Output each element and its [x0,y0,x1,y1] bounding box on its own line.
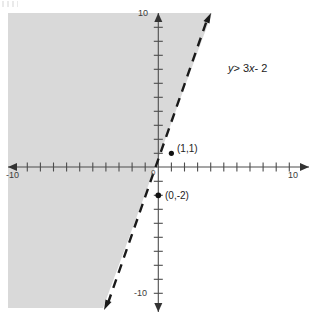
y-axis-max-label: 10 [138,8,148,18]
origin-label: 0 [151,168,155,177]
coordinate-plane-svg [0,0,317,321]
inequality-label: y> 3x- 2 [228,62,267,74]
point-marker-0-neg2 [155,192,161,198]
inequality-relation: > 3 [234,62,250,74]
x-axis-min-label: -10 [6,170,19,180]
y-axis-min-label: -10 [134,288,147,298]
point-label-0-neg2: (0,-2) [165,190,189,201]
shaded-solution-region [8,13,212,308]
point-label-1-1: (1,1) [177,143,198,154]
x-axis-max-label: 10 [288,170,298,180]
point-marker-1-1 [169,151,174,156]
inequality-constant: - 2 [255,62,268,74]
inequality-graph-figure: -10 10 10 -10 0 (1,1) (0,-2) y> 3x- 2 [0,0,317,321]
